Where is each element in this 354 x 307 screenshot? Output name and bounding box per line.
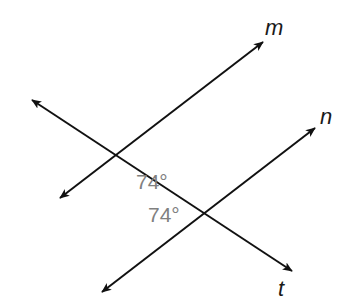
angle-label-bottom: 74° <box>148 203 180 226</box>
geometry-diagram: m n t 74° 74° <box>0 0 354 307</box>
label-m: m <box>265 15 283 40</box>
angle-label-top: 74° <box>136 170 168 193</box>
label-n: n <box>320 104 332 129</box>
line-n <box>102 128 315 292</box>
label-t: t <box>278 276 285 301</box>
